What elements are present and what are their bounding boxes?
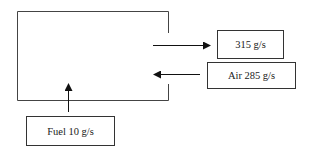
- outlet-flow-label: 315 g/s: [235, 39, 266, 50]
- chamber-outline: [18, 12, 169, 101]
- air-flow-label: Air 285 g/s: [228, 70, 275, 81]
- outlet-flow-box: 315 g/s: [217, 30, 284, 59]
- fuel-flow-box: Fuel 10 g/s: [26, 116, 115, 146]
- air-flow-box: Air 285 g/s: [207, 62, 296, 89]
- fuel-flow-label: Fuel 10 g/s: [47, 126, 94, 137]
